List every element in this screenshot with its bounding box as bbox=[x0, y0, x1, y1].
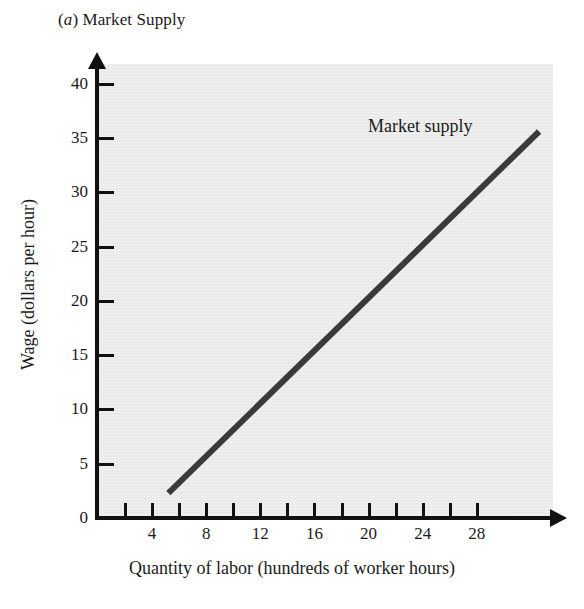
y-axis-line bbox=[95, 66, 99, 520]
x-axis-line bbox=[96, 516, 554, 520]
y-tick-label: 5 bbox=[46, 455, 88, 472]
x-tick-label: 4 bbox=[132, 525, 172, 542]
x-tick-label: 12 bbox=[240, 525, 280, 542]
panel-title-paren-close: ) bbox=[72, 10, 78, 29]
y-tick-mark bbox=[99, 300, 114, 303]
y-tick-mark bbox=[99, 246, 114, 249]
x-tick-mark bbox=[476, 503, 479, 517]
x-tick-mark bbox=[313, 503, 316, 517]
y-tick-label: 0 bbox=[46, 509, 88, 526]
plot-area bbox=[98, 64, 553, 518]
x-axis-title: Quantity of labor (hundreds of worker ho… bbox=[0, 558, 584, 579]
y-tick-label-text: 30 bbox=[48, 183, 88, 200]
x-tick-mark bbox=[286, 503, 289, 517]
y-tick-mark bbox=[99, 463, 114, 466]
series-annotation-market-supply: Market supply bbox=[368, 116, 472, 137]
x-tick-mark bbox=[232, 503, 235, 517]
x-tick-mark bbox=[449, 503, 452, 517]
x-tick-label: 20 bbox=[349, 525, 389, 542]
x-axis-arrow-icon bbox=[550, 509, 567, 527]
x-tick-label: 16 bbox=[294, 525, 334, 542]
y-tick-mark bbox=[99, 354, 114, 357]
page-title: (a) Market Supply bbox=[58, 10, 185, 30]
x-tick-label: 8 bbox=[186, 525, 226, 542]
y-tick-label-text: 40 bbox=[48, 75, 88, 92]
y-tick-mark bbox=[99, 408, 114, 411]
figure-panel: (a) Market Supply 0510152025303540 48121… bbox=[0, 0, 584, 609]
y-tick-label: 25 bbox=[46, 238, 88, 255]
x-tick-mark bbox=[178, 503, 181, 517]
y-tick-label-text: 15 bbox=[48, 346, 88, 363]
x-tick-label: 28 bbox=[457, 525, 497, 542]
y-tick-label: 15 bbox=[46, 346, 88, 363]
x-tick-label: 24 bbox=[403, 525, 443, 542]
y-tick-label-text: 20 bbox=[48, 292, 88, 309]
y-tick-label: 20 bbox=[46, 292, 88, 309]
x-tick-mark bbox=[124, 503, 127, 517]
y-tick-label-text: 10 bbox=[48, 400, 88, 417]
y-tick-label-text: 0 bbox=[48, 509, 88, 526]
y-tick-mark bbox=[99, 191, 114, 194]
y-axis-title: Wage (dollars per hour) bbox=[18, 165, 39, 405]
y-tick-mark bbox=[99, 83, 114, 86]
y-tick-label-text: 25 bbox=[48, 238, 88, 255]
x-tick-mark bbox=[368, 503, 371, 517]
y-tick-label-text: 5 bbox=[48, 455, 88, 472]
x-tick-mark bbox=[395, 503, 398, 517]
y-tick-label: 35 bbox=[46, 129, 88, 146]
y-tick-mark bbox=[99, 137, 114, 140]
x-tick-mark bbox=[205, 503, 208, 517]
paper-texture bbox=[98, 64, 553, 518]
y-tick-label: 40 bbox=[46, 75, 88, 92]
y-tick-label-text: 35 bbox=[48, 129, 88, 146]
x-tick-mark bbox=[422, 503, 425, 517]
panel-title-text: Market Supply bbox=[83, 10, 186, 29]
y-tick-label: 10 bbox=[46, 400, 88, 417]
x-tick-mark bbox=[259, 503, 262, 517]
y-axis-arrow-icon bbox=[88, 52, 106, 69]
x-tick-mark bbox=[151, 503, 154, 517]
y-tick-label: 30 bbox=[46, 183, 88, 200]
x-tick-mark bbox=[341, 503, 344, 517]
